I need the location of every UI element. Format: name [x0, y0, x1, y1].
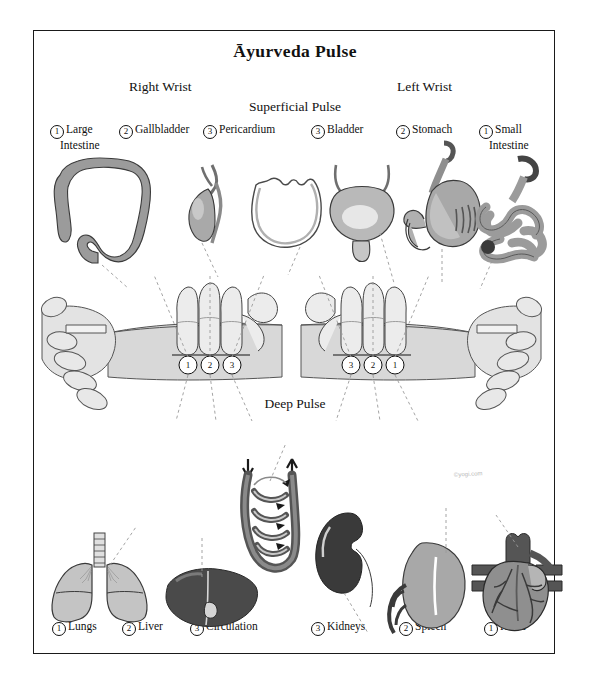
- marker-2-icon: 2: [122, 622, 136, 636]
- label-large-intestine: 1Large Intestine: [50, 123, 100, 152]
- marker-2-icon: 2: [396, 125, 410, 139]
- lungs-illustration: [44, 531, 154, 623]
- svg-text:1: 1: [393, 360, 398, 370]
- marker-3-icon: 3: [311, 125, 325, 139]
- right-wrist-header: Right Wrist: [129, 79, 192, 95]
- svg-text:2: 2: [208, 360, 213, 370]
- svg-text:1: 1: [186, 360, 191, 370]
- label-kidneys: 3Kidneys: [311, 620, 365, 636]
- bladder-illustration: [322, 159, 402, 269]
- left-wrist-header: Left Wrist: [397, 79, 452, 95]
- large-intestine-illustration: [42, 153, 157, 271]
- small-intestine-illustration: [466, 155, 562, 273]
- marker-3-icon: 3: [311, 622, 325, 636]
- label-stomach: 2Stomach: [396, 123, 452, 139]
- spleen-illustration: [384, 539, 476, 639]
- pericardium-illustration: [242, 159, 328, 259]
- label-pericardium: 3Pericardium: [203, 123, 275, 139]
- svg-text:3: 3: [349, 360, 354, 370]
- ayurveda-pulse-diagram: Āyurveda Pulse Right Wrist Left Wrist Su…: [0, 0, 589, 686]
- circulation-illustration: [224, 455, 316, 585]
- marker-1-icon: 1: [50, 125, 64, 139]
- page-title: Āyurveda Pulse: [34, 41, 556, 62]
- heart-illustration: [466, 529, 566, 639]
- artist-signature: ©yogi.com: [454, 470, 483, 477]
- marker-1-icon: 1: [479, 125, 493, 139]
- finger-position-markers-right: 1 2 3: [179, 356, 241, 374]
- left-wrist-hands-illustration: 3 2 1: [292, 281, 547, 416]
- marker-2-icon: 2: [119, 125, 133, 139]
- label-gallbladder: 2Gallbladder: [119, 123, 189, 139]
- marker-3-icon: 3: [203, 125, 217, 139]
- finger-position-markers-left: 3 2 1: [342, 356, 404, 374]
- svg-text:2: 2: [371, 360, 376, 370]
- superficial-pulse-header: Superficial Pulse: [34, 99, 556, 115]
- right-wrist-hands-illustration: 1 2 3: [36, 281, 286, 416]
- gallbladder-illustration: [182, 159, 242, 269]
- diagram-frame: Āyurveda Pulse Right Wrist Left Wrist Su…: [33, 30, 555, 654]
- label-bladder: 3Bladder: [311, 123, 363, 139]
- svg-text:3: 3: [230, 360, 235, 370]
- marker-1-icon: 1: [52, 622, 66, 636]
